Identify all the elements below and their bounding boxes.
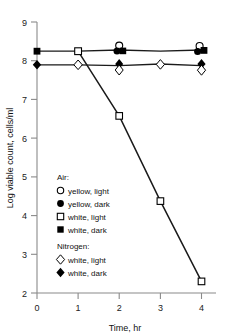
- marker-filled-square-x0: [34, 48, 41, 55]
- legend-marker-filled-square-icon: [57, 226, 63, 232]
- x-tick-label-4: 4: [199, 303, 204, 313]
- marker-open-diamond-x3: [156, 60, 164, 70]
- y-axis-title: Log viable count, cells/ml: [5, 108, 15, 209]
- marker-filled-circle-x4: [194, 48, 201, 55]
- y-tick-label-4: 4: [22, 211, 27, 221]
- legend-label-nitrogen-white-light: white, light: [67, 256, 107, 265]
- series-line-air-white-light: [78, 51, 201, 281]
- legend-label-air-white-dark: white, dark: [67, 226, 108, 235]
- legend-marker-open-circle-icon: [57, 187, 63, 193]
- x-tick-label-3: 3: [158, 303, 163, 313]
- axis-lines: [37, 22, 216, 293]
- marker-open-diamond-x4: [197, 65, 205, 75]
- markers-upper-band: [33, 42, 208, 75]
- chart-figure: 2 3 4 5 6 7 8 9 0 1 2 3 4 Time, hr Log v…: [0, 0, 227, 336]
- legend-marker-filled-diamond-icon: [56, 268, 64, 277]
- y-tick-label-3: 3: [22, 250, 27, 260]
- marker-filled-circle-x2: [114, 48, 121, 55]
- legend-marker-filled-circle-icon: [57, 200, 64, 207]
- legend-marker-open-square-icon: [57, 213, 63, 219]
- legend-label-air-yellow-dark: yellow, dark: [68, 200, 111, 209]
- x-tick-label-0: 0: [34, 303, 39, 313]
- marker-filled-diamond-x0: [33, 60, 41, 70]
- y-tick-label-9: 9: [22, 18, 27, 28]
- marker-open-square-x2-decline: [116, 113, 123, 120]
- x-axis-ticks: [37, 293, 202, 299]
- legend-group-air-label: Air:: [57, 173, 69, 182]
- marker-open-square-x3-decline: [157, 198, 164, 205]
- y-tick-label-5: 5: [22, 172, 27, 182]
- x-axis-title: Time, hr: [109, 323, 142, 333]
- marker-filled-square-x4: [201, 47, 208, 54]
- legend-group-nitrogen-label: Nitrogen:: [57, 242, 89, 251]
- y-tick-label-7: 7: [22, 95, 27, 105]
- markers-declining-series: [116, 113, 205, 285]
- chart-legend: Air: yellow, light yellow, dark white, l…: [56, 173, 110, 278]
- y-tick-label-6: 6: [22, 134, 27, 144]
- marker-open-diamond-x2: [115, 65, 123, 75]
- legend-label-nitrogen-white-dark: white, dark: [67, 269, 108, 278]
- y-tick-label-8: 8: [22, 56, 27, 66]
- legend-label-air-white-light: white, light: [67, 213, 107, 222]
- chart-svg: 2 3 4 5 6 7 8 9 0 1 2 3 4 Time, hr Log v…: [0, 0, 227, 336]
- x-tick-label-1: 1: [76, 303, 81, 313]
- marker-open-square-x4-decline: [198, 278, 205, 285]
- marker-open-square-x1: [75, 48, 82, 55]
- marker-filled-square-x2: [120, 48, 127, 55]
- legend-marker-open-diamond-icon: [56, 255, 64, 264]
- x-tick-label-2: 2: [117, 303, 122, 313]
- marker-open-diamond-x1: [74, 60, 82, 70]
- y-tick-label-2: 2: [22, 289, 27, 299]
- legend-label-air-yellow-light: yellow, light: [68, 187, 110, 196]
